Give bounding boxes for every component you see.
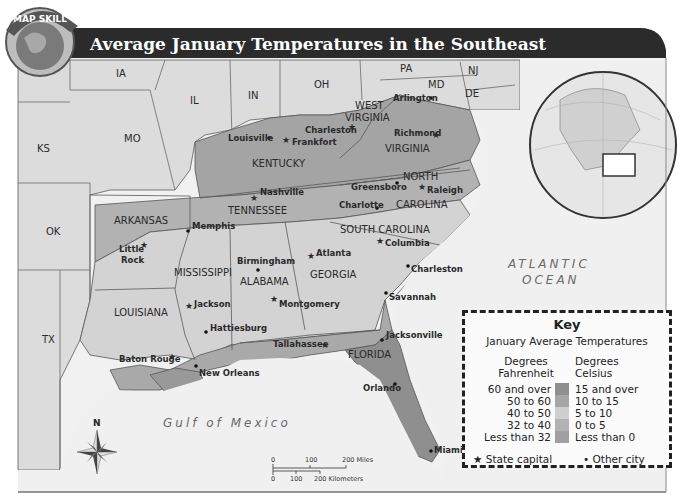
key-col-f-line2: Fahrenheit (491, 367, 561, 379)
city-louisville: Louisville (228, 133, 274, 143)
city-charlotte: Charlotte (339, 200, 384, 210)
svg-text:New Orleans: New Orleans (199, 368, 260, 378)
key-legend-city-label: Other city (593, 453, 645, 465)
key-row-f: Less than 32 (469, 431, 551, 443)
svg-text:Memphis: Memphis (192, 221, 235, 231)
state-label-ks: KS (37, 143, 50, 154)
svg-text:Charlotte: Charlotte (339, 200, 384, 210)
key-row-f: 60 and over (469, 383, 551, 395)
key-col-f-line1: Degrees (491, 355, 561, 367)
svg-text:Miami: Miami (434, 445, 463, 455)
key-subtitle: January Average Temperatures (465, 335, 669, 347)
city-greensboro: Greensboro (351, 181, 407, 192)
scale-km-200: 200 Kilometers (314, 475, 364, 483)
state-label-mo: MO (124, 133, 141, 144)
svg-text:Nashville: Nashville (260, 187, 304, 197)
svg-text:Birmingham: Birmingham (237, 256, 295, 266)
state-label-nc-2: CAROLINA (396, 199, 448, 210)
atlantic-ocean-label-2: OCEAN (522, 273, 580, 287)
city-columbia: ★Columbia (376, 236, 430, 248)
svg-text:Rock: Rock (121, 255, 144, 265)
key-legend-capital: ★ State capital (473, 453, 552, 465)
key-col-fahrenheit: Degrees Fahrenheit (491, 355, 561, 379)
key-row-c: 15 and over (575, 383, 638, 395)
key-swatch-60 (555, 383, 569, 395)
svg-text:Frankfort: Frankfort (292, 137, 337, 147)
svg-text:Jacksonville: Jacksonville (385, 330, 443, 340)
city-arlington: Arlington (393, 93, 438, 103)
svg-text:Montgomery: Montgomery (279, 299, 340, 309)
city-charleston-sc: Charleston (406, 264, 463, 274)
locator-box (603, 154, 635, 176)
city-baton-rouge: ★Baton Rouge (119, 352, 181, 364)
svg-text:Greensboro: Greensboro (351, 182, 407, 192)
key-row-f: 40 to 50 (469, 407, 551, 419)
svg-text:Savannah: Savannah (389, 292, 436, 302)
svg-text:Charleston: Charleston (305, 125, 357, 135)
state-label-in: IN (248, 90, 258, 101)
map-title: Average January Temperatures in the Sout… (89, 34, 546, 54)
state-label-la: LOUISIANA (114, 307, 168, 318)
key-row-f: 32 to 40 (469, 419, 551, 431)
scale-km-100: 100 (290, 475, 302, 483)
svg-text:Arlington: Arlington (393, 93, 438, 103)
key-celsius-values: 15 and over 10 to 15 5 to 10 0 to 5 Less… (575, 383, 638, 443)
svg-text:Jackson: Jackson (193, 299, 231, 309)
capital-star-icon: ★ (473, 453, 482, 465)
city-hattiesburg: Hattiesburg (204, 323, 267, 334)
map-key: Key January Average Temperatures Degrees… (462, 310, 672, 468)
state-label-ar: ARKANSAS (114, 215, 168, 226)
capital-star-icon: ★ (418, 182, 426, 192)
state-label-ms: MISSISSIPPI (174, 267, 232, 278)
key-row-c: 0 to 5 (575, 419, 638, 431)
key-legend-city: • Other city (583, 453, 645, 465)
key-row-c: 5 to 10 (575, 407, 638, 419)
key-col-c-line2: Celsius (575, 367, 619, 379)
key-title: Key (465, 317, 669, 332)
state-label-oh: OH (314, 79, 329, 90)
state-label-sc: SOUTH CAROLINA (340, 224, 430, 235)
svg-text:Orlando: Orlando (363, 383, 401, 393)
state-label-al: ALABAMA (240, 276, 289, 287)
scale-km-0: 0 (271, 475, 275, 483)
state-label-va: VIRGINIA (385, 143, 430, 154)
key-swatch-50 (555, 395, 569, 407)
svg-text:Charleston: Charleston (411, 264, 463, 274)
state-label-md: MD (428, 79, 445, 90)
key-fahrenheit-values: 60 and over 50 to 60 40 to 50 32 to 40 L… (469, 383, 551, 443)
key-swatch-32 (555, 419, 569, 431)
svg-text:Atlanta: Atlanta (316, 248, 351, 258)
state-label-nj: NJ (468, 65, 478, 76)
scale-mi-200: 200 Miles (342, 456, 374, 464)
svg-text:Louisville: Louisville (228, 133, 274, 143)
state-label-pa: PA (400, 63, 412, 74)
key-legend-capital-label: State capital (486, 453, 552, 465)
state-label-ga: GEORGIA (310, 269, 357, 280)
state-label-wv: WEST (355, 100, 385, 111)
compass-north-label: N (93, 418, 101, 428)
key-swatch-40 (555, 407, 569, 419)
city-orlando: Orlando (363, 382, 401, 393)
city-dot-icon: • (583, 453, 589, 465)
state-label-tx: TX (41, 334, 55, 345)
scale-mi-0: 0 (271, 456, 275, 464)
state-label-ia: IA (116, 68, 126, 79)
key-row-c: Less than 0 (575, 431, 638, 443)
key-col-c-line1: Degrees (575, 355, 619, 367)
key-swatch-lt32 (555, 431, 569, 443)
svg-text:Little: Little (119, 244, 144, 254)
key-col-celsius: Degrees Celsius (575, 355, 619, 379)
svg-text:Hattiesburg: Hattiesburg (210, 323, 267, 333)
capital-star-icon: ★ (185, 301, 193, 311)
key-row-f: 50 to 60 (469, 395, 551, 407)
capital-star-icon: ★ (270, 294, 278, 304)
scale-mi-100: 100 (305, 456, 317, 464)
svg-text:Tallahassee: Tallahassee (273, 339, 329, 349)
capital-star-icon: ★ (282, 135, 290, 145)
state-label-il: IL (190, 95, 199, 106)
capital-star-icon: ★ (307, 251, 315, 261)
svg-text:Raleigh: Raleigh (427, 185, 463, 195)
capital-star-icon: ★ (376, 236, 384, 246)
title-bar: Average January Temperatures in the Sout… (52, 28, 666, 58)
locator-globe (530, 72, 676, 218)
